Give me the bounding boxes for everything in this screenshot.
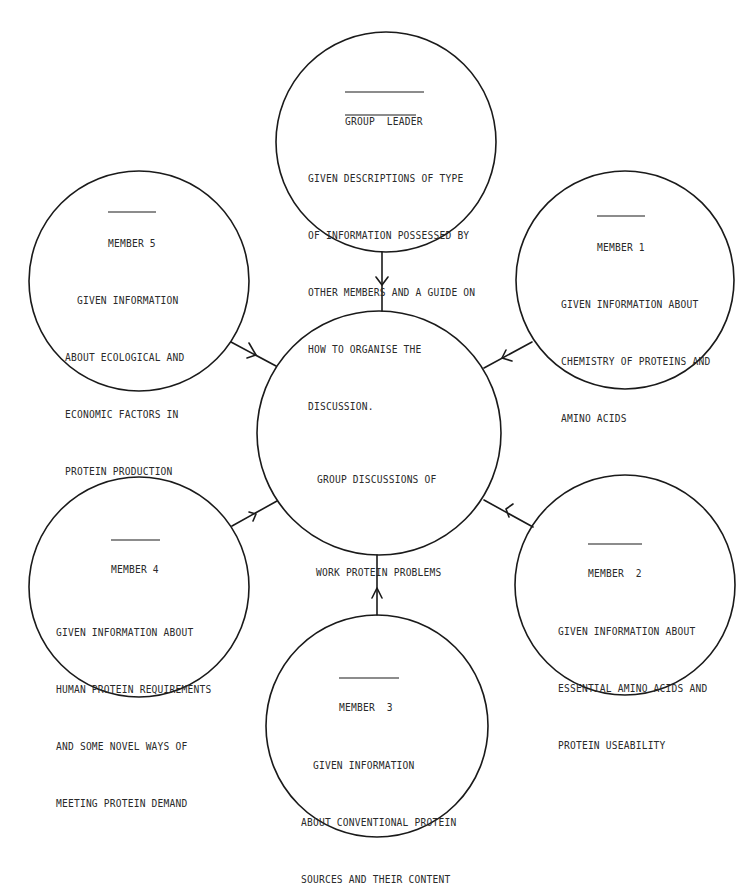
edge-member2-to-center <box>484 500 533 527</box>
member4-line-4: MEETING PROTEIN DEMAND <box>56 794 211 813</box>
member3-line-3: SOURCES AND THEIR CONTENT <box>301 870 456 887</box>
group-leader-line-3: OTHER MEMBERS AND A GUIDE ON <box>308 283 475 302</box>
member4-line-1: GIVEN INFORMATION ABOUT <box>56 623 211 642</box>
member2-line-3: PROTEIN USEABILITY <box>558 736 707 755</box>
center-node: GROUP DISCUSSIONS OF WORK PROTEIN PROBLE… <box>316 402 442 619</box>
center-line-2: WORK PROTEIN PROBLEMS <box>316 557 442 588</box>
member5-line-4: PROTEIN PRODUCTION <box>65 462 185 481</box>
member3-title: MEMBER 3 <box>301 698 456 717</box>
member5-title: MEMBER 5 <box>65 234 185 253</box>
member4-node: MEMBER 4 GIVEN INFORMATION ABOUT HUMAN P… <box>56 522 211 832</box>
group-leader-line-1: GIVEN DESCRIPTIONS OF TYPE <box>308 169 475 188</box>
member5-line-1: GIVEN INFORMATION <box>65 291 185 310</box>
member4-title: MEMBER 4 <box>56 560 211 579</box>
member1-node: MEMBER 1 GIVEN INFORMATION ABOUT CHEMIST… <box>561 200 710 447</box>
group-leader-title: GROUP LEADER <box>308 112 475 131</box>
member5-line-3: ECONOMIC FACTORS IN <box>65 405 185 424</box>
member1-title: MEMBER 1 <box>561 238 710 257</box>
member2-title: MEMBER 2 <box>558 564 707 583</box>
member3-line-2: ABOUT CONVENTIONAL PROTEIN <box>301 813 456 832</box>
group-leader-line-2: OF INFORMATION POSSESSED BY <box>308 226 475 245</box>
member3-line-1: GIVEN INFORMATION <box>301 756 456 775</box>
member4-line-3: AND SOME NOVEL WAYS OF <box>56 737 211 756</box>
center-line-1: GROUP DISCUSSIONS OF <box>316 464 442 495</box>
edge-member4-to-center <box>232 501 277 526</box>
member1-line-2: CHEMISTRY OF PROTEINS AND <box>561 352 710 371</box>
descriptions-emphasis: DESCRIPTIONS <box>344 173 416 184</box>
edge-member5-to-center <box>231 342 276 366</box>
group-leader-node: GROUP LEADER GIVEN DESCRIPTIONS OF TYPE … <box>308 74 475 435</box>
member2-line-1: GIVEN INFORMATION ABOUT <box>558 622 707 641</box>
member2-node: MEMBER 2 GIVEN INFORMATION ABOUT ESSENTI… <box>558 526 707 774</box>
member4-line-2: HUMAN PROTEIN REQUIREMENTS <box>56 680 211 699</box>
group-leader-line-4: HOW TO ORGANISE THE <box>308 340 475 359</box>
member1-line-3: AMINO ACIDS <box>561 409 710 428</box>
member3-node: MEMBER 3 GIVEN INFORMATION ABOUT CONVENT… <box>301 660 456 887</box>
member2-line-2: ESSENTIAL AMINO ACIDS AND <box>558 679 707 698</box>
member5-line-2: ABOUT ECOLOGICAL AND <box>65 348 185 367</box>
member1-line-1: GIVEN INFORMATION ABOUT <box>561 295 710 314</box>
member5-node: MEMBER 5 GIVEN INFORMATION ABOUT ECOLOGI… <box>65 196 185 500</box>
edge-member1-to-center <box>484 342 532 368</box>
